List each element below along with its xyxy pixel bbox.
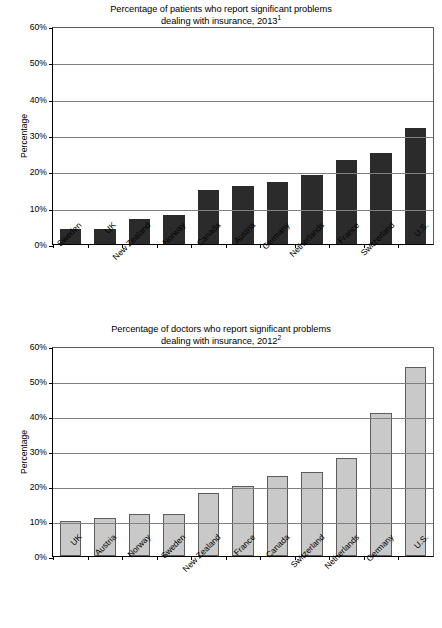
y-tick-mark [49,558,53,559]
y-tick-mark [49,246,53,247]
y-tick-label: 40% [30,95,47,105]
bar-slot [226,348,261,556]
gridline [53,210,433,211]
y-tick-mark [49,28,53,29]
chart-doctors-y-ticks: 0%10%20%30%40%50%60% [16,347,50,557]
chart-patients-title-footnote-marker: 1 [277,14,281,21]
y-tick-mark [49,137,53,138]
bar-slot [122,28,157,244]
chart-doctors: Percentage of doctors who report signifi… [0,320,442,628]
bar-slot [329,348,364,556]
x-tick-mark [226,244,227,248]
gridline [53,137,433,138]
chart-patients-plot-area [52,27,434,245]
bar-slot [226,28,261,244]
y-tick-label: 30% [30,131,47,141]
y-tick-label: 60% [30,22,47,32]
bar-slot [329,28,364,244]
y-tick-mark [49,64,53,65]
chart-doctors-plot-area [52,347,434,557]
y-tick-label: 50% [30,377,47,387]
y-tick-label: 30% [30,447,47,457]
chart-patients-y-ticks: 0%10%20%30%40%50%60% [16,27,50,245]
y-tick-mark [49,101,53,102]
x-tick-mark [88,556,89,560]
bar-slot [260,348,295,556]
bar-slot [191,28,226,244]
y-tick-mark [49,488,53,489]
chart-patients-title-line2: dealing with insurance, 2013 [161,16,277,26]
chart-patients-title: Percentage of patients who report signif… [0,0,442,27]
y-tick-label: 0% [35,552,47,562]
gridline [53,383,433,384]
x-tick-mark [53,244,54,248]
gridline [53,173,433,174]
chart-patients-plot: Percentage 0%10%20%30%40%50%60% [0,27,442,245]
x-tick-mark [157,556,158,560]
y-tick-label: 60% [30,342,47,352]
bar-slot [122,348,157,556]
y-tick-label: 10% [30,517,47,527]
chart-doctors-title: Percentage of doctors who report signifi… [0,320,442,347]
y-tick-mark [49,523,53,524]
x-tick-mark [191,244,192,248]
bar-slot [398,28,433,244]
y-tick-mark [49,383,53,384]
chart-doctors-bars [53,348,433,556]
x-tick-mark [398,244,399,248]
bar-slot [53,348,88,556]
x-tick-mark [122,556,123,560]
gridline [53,488,433,489]
chart-patients: Percentage of patients who report signif… [0,0,442,314]
gridline [53,453,433,454]
gridline [53,523,433,524]
y-tick-label: 20% [30,482,47,492]
y-tick-mark [49,173,53,174]
x-tick-mark [157,244,158,248]
figure-page: Percentage of patients who report signif… [0,0,442,628]
gridline [53,101,433,102]
y-tick-mark [49,348,53,349]
chart-doctors-title-line1: Percentage of doctors who report signifi… [111,324,331,334]
bar-slot [191,348,226,556]
x-tick-mark [226,556,227,560]
bar-slot [88,348,123,556]
y-tick-label: 20% [30,167,47,177]
chart-patients-title-line1: Percentage of patients who report signif… [110,4,332,14]
y-tick-label: 0% [35,240,47,250]
bar-slot [88,28,123,244]
y-tick-mark [49,210,53,211]
bar-slot [295,348,330,556]
y-tick-label: 40% [30,412,47,422]
y-tick-label: 50% [30,58,47,68]
bar-slot [53,28,88,244]
bar-slot [260,28,295,244]
bar-slot [157,28,192,244]
bar-slot [398,348,433,556]
gridline [53,418,433,419]
bar-slot [157,348,192,556]
chart-doctors-title-footnote-marker: 2 [277,334,281,341]
x-tick-mark [88,244,89,248]
chart-doctors-title-line2: dealing with insurance, 2012 [161,336,277,346]
x-tick-mark [260,556,261,560]
y-tick-mark [49,453,53,454]
bar[interactable] [405,367,426,556]
x-tick-mark [329,244,330,248]
y-tick-label: 10% [30,204,47,214]
x-tick-mark [398,556,399,560]
chart-patients-bars [53,28,433,244]
x-tick-mark [53,556,54,560]
y-tick-mark [49,418,53,419]
gridline [53,64,433,65]
bar-slot [364,348,399,556]
bar-slot [364,28,399,244]
bar-slot [295,28,330,244]
chart-doctors-plot: Percentage 0%10%20%30%40%50%60% [0,347,442,557]
